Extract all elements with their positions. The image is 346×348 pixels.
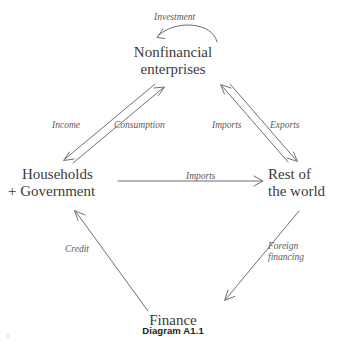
edge-label-imports-right: Imports [212,120,242,131]
edge-credit-arrow [75,211,149,312]
edge-label-imports-middle: Imports [186,171,216,182]
node-rest-of-the-world: Rest of the world [268,166,344,200]
node-label-line: Households [8,166,148,183]
edge-label-line: Foreign [268,241,304,252]
node-label-line: Nonfinancial [113,44,233,61]
corner-artifact [6,334,10,338]
edge-label-credit: Credit [65,244,89,255]
node-label-line: + Government [8,183,148,200]
edge-label-income: Income [52,120,80,131]
edge-label-line: financing [268,252,304,263]
edge-investment-arrow [157,25,217,42]
node-label-line: enterprises [113,61,233,78]
edge-label-investment: Investment [154,12,195,23]
edge-label-consumption: Consumption [114,120,165,131]
edge-label-foreign-financing: Foreign financing [268,241,304,263]
node-label-line: Rest of [268,166,344,183]
diagram-caption: Diagram A1.1 [0,325,346,336]
edge-label-exports: Exports [270,120,300,131]
node-nonfinancial-enterprises: Nonfinancial enterprises [113,44,233,78]
diagram-canvas: Nonfinancial enterprises Households + Go… [0,0,346,348]
node-households-government: Households + Government [8,166,148,200]
node-label-line: the world [268,183,344,200]
